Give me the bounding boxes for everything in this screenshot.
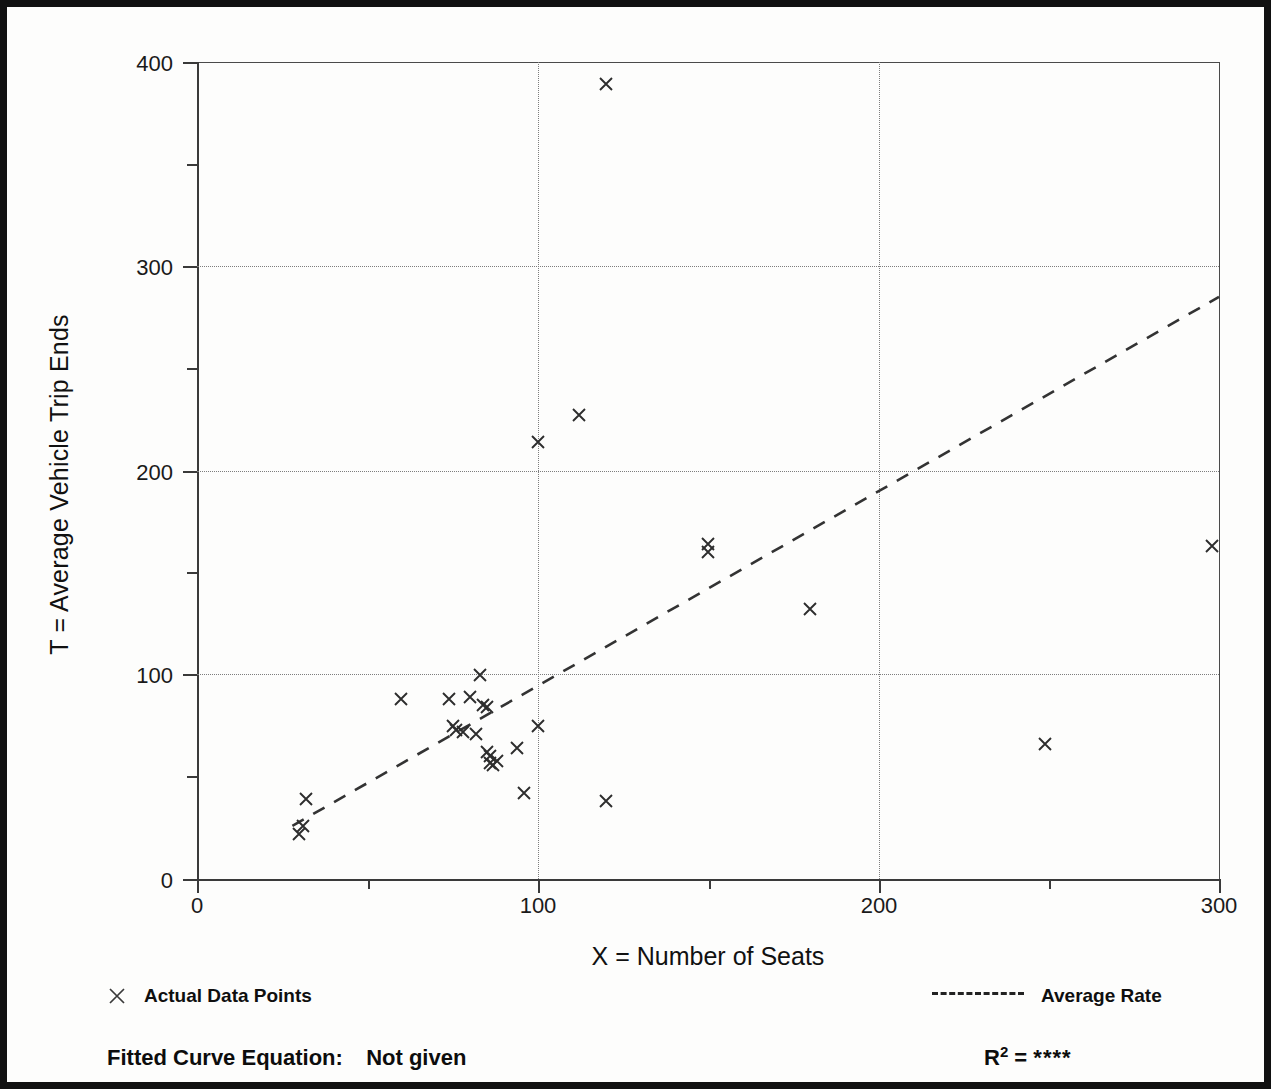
r-squared-exponent: 2 (1000, 1043, 1008, 1060)
fitted-curve-equation-value: Not given (366, 1045, 466, 1070)
x-tick-200 (879, 879, 881, 893)
data-point-marker (596, 791, 616, 811)
r-squared-value: **** (1033, 1045, 1071, 1070)
y-tick-label-400: 400 (103, 51, 173, 77)
y-tick-label-200: 200 (103, 460, 173, 486)
y-tick-250 (187, 368, 197, 370)
plot-frame-right (1219, 62, 1220, 879)
gridline-x-200 (879, 62, 880, 879)
figure-canvas: 400 300 200 100 0 0 100 200 300 T = Aver… (7, 7, 1264, 1082)
y-tick-100 (183, 674, 197, 676)
x-tick-0 (197, 879, 199, 893)
data-point-marker (596, 74, 616, 94)
data-point-marker (698, 534, 718, 554)
y-tick-label-100: 100 (103, 663, 173, 689)
data-point-marker (470, 665, 490, 685)
x-tick-300 (1219, 879, 1221, 893)
data-point-marker (528, 716, 548, 736)
gridline-x-100 (538, 62, 539, 879)
y-tick-50 (187, 776, 197, 778)
y-tick-label-0: 0 (103, 868, 173, 894)
data-point-marker (477, 697, 497, 717)
y-tick-0 (183, 879, 197, 881)
y-tick-label-300: 300 (103, 255, 173, 281)
data-point-marker (528, 432, 548, 452)
x-marker-icon (107, 986, 127, 1006)
y-tick-350 (187, 164, 197, 166)
data-point-marker (1035, 734, 1055, 754)
r-squared-label: R (984, 1045, 1000, 1070)
x-tick-label-300: 300 (1179, 893, 1259, 919)
y-tick-300 (183, 266, 197, 268)
gridline-y-100 (197, 674, 1219, 675)
data-point-marker (391, 689, 411, 709)
data-point-marker (296, 789, 316, 809)
r-squared-equals: = (1014, 1045, 1027, 1070)
data-point-marker (507, 738, 527, 758)
y-tick-400 (183, 62, 197, 64)
dashed-line-icon (932, 992, 1024, 995)
x-tick-label-100: 100 (498, 893, 578, 919)
data-point-marker (1202, 536, 1222, 556)
fitted-curve-equation: Fitted Curve Equation: Not given (107, 1045, 466, 1071)
data-point-marker (439, 689, 459, 709)
y-axis-title: T = Average Vehicle Trip Ends (45, 175, 74, 795)
gridline-y-300 (197, 266, 1219, 267)
fitted-curve-equation-label: Fitted Curve Equation: (107, 1045, 343, 1070)
y-tick-150 (187, 572, 197, 574)
legend-average-rate[interactable]: Average Rate (932, 985, 1162, 1007)
x-axis-line (197, 879, 1219, 881)
x-tick-label-0: 0 (157, 893, 237, 919)
plot-frame-top (197, 62, 1219, 63)
x-tick-100 (538, 879, 540, 893)
data-point-marker (800, 599, 820, 619)
data-point-marker (569, 405, 589, 425)
figure-page: 400 300 200 100 0 0 100 200 300 T = Aver… (0, 0, 1271, 1089)
x-axis-title: X = Number of Seats (197, 942, 1219, 971)
r-squared-block: R2 = **** (984, 1043, 1072, 1071)
x-tick-250 (1049, 879, 1051, 889)
data-point-marker (487, 751, 507, 771)
data-point-marker (466, 724, 486, 744)
x-tick-50 (368, 879, 370, 889)
data-point-marker (514, 783, 534, 803)
x-tick-150 (709, 879, 711, 889)
legend-average-rate-label: Average Rate (1041, 985, 1162, 1007)
gridline-y-200 (197, 471, 1219, 472)
legend-actual-data-points-label: Actual Data Points (144, 985, 312, 1007)
data-point-marker (293, 816, 313, 836)
y-tick-200 (183, 471, 197, 473)
legend-actual-data-points[interactable]: Actual Data Points (107, 985, 312, 1007)
x-tick-label-200: 200 (839, 893, 919, 919)
